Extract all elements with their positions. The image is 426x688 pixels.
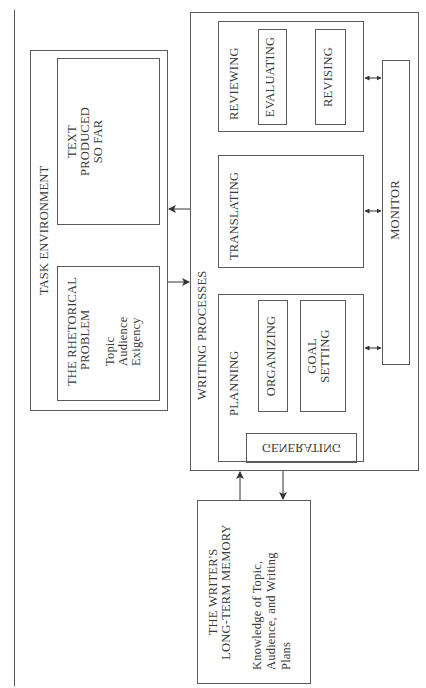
connector-arrows bbox=[0, 0, 426, 688]
